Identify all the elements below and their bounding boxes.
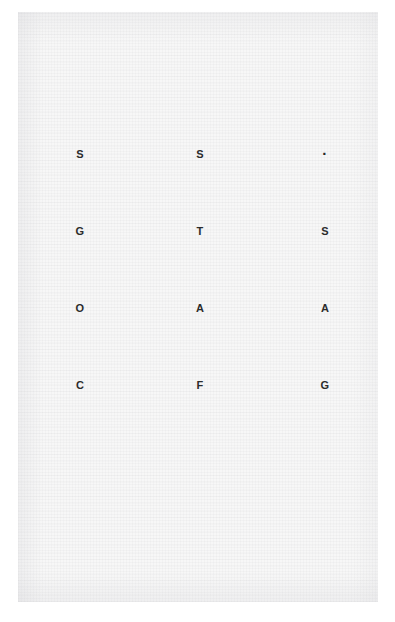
grid-dot: · bbox=[312, 146, 338, 162]
paper-sheet: SS·GTSOAACFG bbox=[18, 12, 378, 602]
grid-letter: S bbox=[67, 146, 93, 162]
grid-letter: S bbox=[187, 146, 213, 162]
letter-grid: SS·GTSOAACFG bbox=[18, 12, 378, 602]
grid-letter: G bbox=[312, 377, 338, 393]
grid-letter: O bbox=[67, 300, 93, 316]
grid-letter: T bbox=[187, 223, 213, 239]
grid-letter: A bbox=[187, 300, 213, 316]
grid-letter: G bbox=[67, 223, 93, 239]
grid-letter: S bbox=[312, 223, 338, 239]
grid-letter: C bbox=[67, 377, 93, 393]
grid-letter: F bbox=[187, 377, 213, 393]
scanned-page: SS·GTSOAACFG bbox=[0, 0, 395, 622]
grid-letter: A bbox=[312, 300, 338, 316]
bottom-caption bbox=[40, 598, 380, 611]
